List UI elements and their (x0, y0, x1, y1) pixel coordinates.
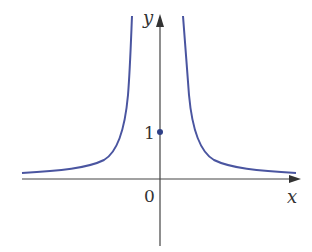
origin-label: 0 (144, 186, 155, 206)
y-axis-label: y (142, 7, 154, 28)
y-axis-arrow-icon (156, 14, 164, 27)
x-axis-arrow-icon (289, 175, 301, 183)
point-0-1 (157, 129, 163, 135)
y-tick-label-1: 1 (144, 123, 155, 143)
chart-canvas: y 1 0 x (0, 0, 312, 252)
x-axis-label: x (287, 186, 297, 207)
curve-right-branch (183, 16, 296, 173)
curve-left-branch (22, 16, 132, 173)
